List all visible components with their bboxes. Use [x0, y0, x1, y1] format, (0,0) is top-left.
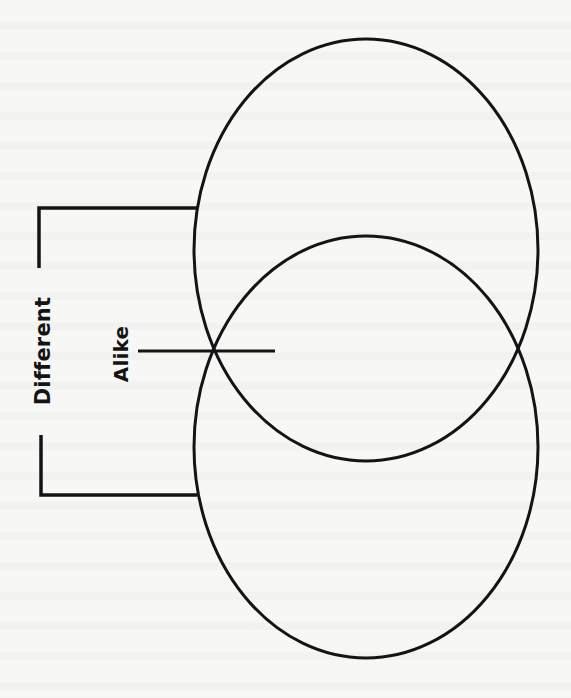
different-bracket-top [39, 208, 197, 268]
alike-label: Alike [109, 326, 133, 383]
different-label: Different [31, 297, 55, 406]
venn-diagram [0, 0, 571, 698]
bottom-ellipse [194, 236, 538, 658]
different-bracket-bottom [41, 435, 197, 495]
top-ellipse [194, 39, 538, 461]
venn-diagram-worksheet: Different Alike [0, 0, 571, 698]
